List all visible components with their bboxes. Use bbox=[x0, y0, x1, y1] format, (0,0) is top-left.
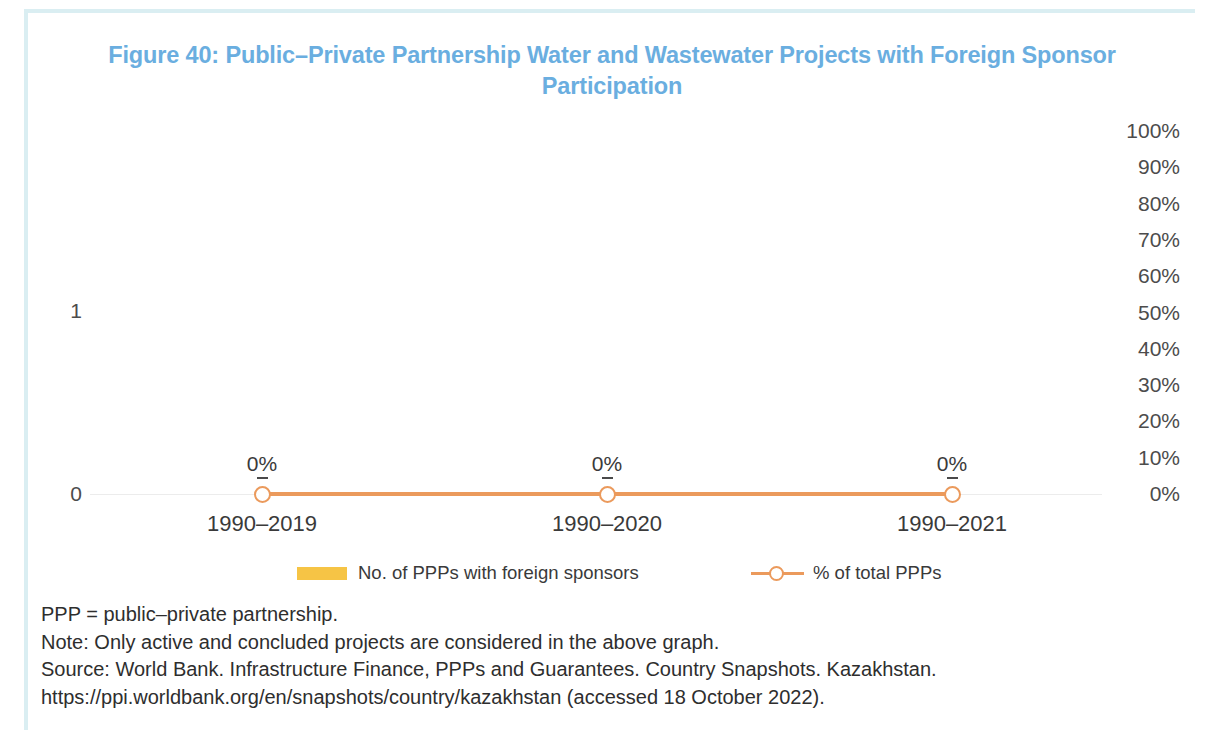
right-axis-tick-label: 70% bbox=[1090, 229, 1180, 250]
right-axis-tick-label: 50% bbox=[1090, 302, 1180, 323]
note-source: Source: World Bank. Infrastructure Finan… bbox=[41, 656, 1186, 711]
data-point-label: 0% bbox=[892, 453, 1012, 474]
data-point-label: 0% bbox=[547, 453, 667, 474]
legend-item-bar-series[interactable]: No. of PPPs with foreign sponsors bbox=[297, 560, 639, 586]
data-label-leader-tick bbox=[257, 477, 268, 479]
right-axis-tick-label: 80% bbox=[1090, 193, 1180, 214]
legend-bar-swatch-icon bbox=[297, 567, 347, 580]
right-axis-tick-label: 40% bbox=[1090, 338, 1180, 359]
x-axis-category-label: 1990–2020 bbox=[457, 512, 757, 536]
note-general: Note: Only active and concluded projects… bbox=[41, 629, 1186, 657]
right-axis-tick-label: 10% bbox=[1090, 447, 1180, 468]
data-point-marker[interactable] bbox=[254, 486, 271, 503]
data-point-marker[interactable] bbox=[944, 486, 961, 503]
data-label-leader-tick bbox=[602, 477, 613, 479]
series-line-segment bbox=[607, 492, 952, 496]
right-axis-tick-label: 30% bbox=[1090, 374, 1180, 395]
legend-line-swatch-icon bbox=[751, 565, 804, 582]
x-axis-category-label: 1990–2021 bbox=[802, 512, 1102, 536]
legend-label-line-series: % of total PPPs bbox=[813, 563, 942, 583]
right-axis-tick-label: 90% bbox=[1090, 156, 1180, 177]
note-abbreviation: PPP = public–private partnership. bbox=[41, 601, 1186, 629]
data-label-leader-tick bbox=[947, 477, 958, 479]
right-axis-tick-label: 100% bbox=[1090, 120, 1180, 141]
data-point-label: 0% bbox=[202, 453, 322, 474]
legend-label-bar-series: No. of PPPs with foreign sponsors bbox=[358, 563, 639, 583]
series-line-segment bbox=[262, 492, 607, 496]
left-axis-tick-label: 1 bbox=[22, 300, 82, 321]
legend-item-line-series[interactable]: % of total PPPs bbox=[751, 560, 942, 586]
x-axis-category-label: 1990–2019 bbox=[112, 512, 412, 536]
figure-notes: PPP = public–private partnership. Note: … bbox=[41, 601, 1186, 711]
right-axis-tick-label: 60% bbox=[1090, 265, 1180, 286]
right-axis-tick-label: 20% bbox=[1090, 410, 1180, 431]
figure-page: Figure 40: Public–Private Partnership Wa… bbox=[0, 0, 1209, 730]
right-axis-tick-label: 0% bbox=[1090, 483, 1180, 504]
chart-legend: No. of PPPs with foreign sponsors % of t… bbox=[0, 560, 1209, 586]
data-point-marker[interactable] bbox=[599, 486, 616, 503]
left-axis-tick-label: 0 bbox=[22, 483, 82, 504]
